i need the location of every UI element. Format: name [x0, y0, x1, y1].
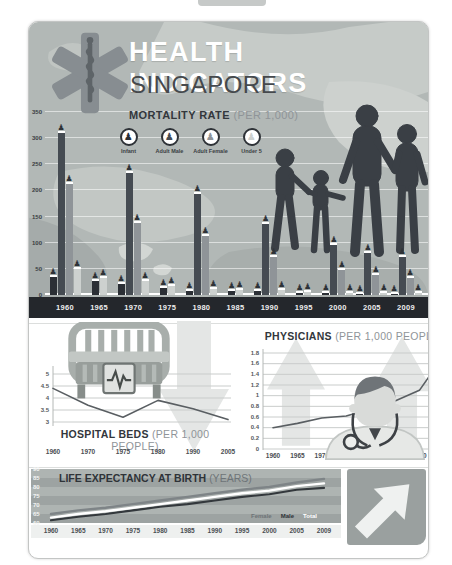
year-label: 1975 [158, 303, 176, 312]
person-icon: ♟ [296, 284, 303, 292]
mortality-bar [372, 273, 379, 295]
x-tick-label: 1980 [153, 527, 167, 534]
x-tick-label: 1975 [126, 527, 140, 534]
x-tick-label: 2009 [317, 527, 331, 534]
person-glyph: ♟ [124, 132, 133, 142]
person-icon: ♟ [270, 248, 277, 256]
y-tick-label: 60 [33, 520, 45, 526]
person-icon: ♟ [380, 284, 387, 292]
life-expectancy-section: LIFE EXPECTANCY AT BIRTH (YEARS) 9085807… [29, 468, 428, 546]
year-label: 1985 [227, 303, 245, 312]
legend-label-total: Total [303, 513, 317, 519]
under-5-icon: ♟ [243, 128, 261, 146]
person-icon: ♟ [73, 260, 80, 268]
person-icon: ♟ [406, 269, 413, 277]
person-icon: ♟ [398, 248, 405, 256]
legend-label: Under 5 [231, 148, 272, 154]
mortality-bar [142, 279, 149, 295]
y-tick-label: 80 [33, 484, 45, 490]
y-tick-label: 90 [33, 466, 45, 472]
top-tab [198, 0, 266, 6]
up-right-arrow-icon [347, 469, 426, 545]
adult-male-icon: ♟ [161, 128, 179, 146]
person-icon: ♟ [414, 284, 421, 292]
mortality-bar [407, 276, 414, 295]
legend-label: Adult Male [149, 148, 190, 154]
mortality-legend: ♟Infant♟Adult Male♟Adult Female♟Under 5 [108, 128, 272, 154]
person-icon: ♟ [372, 266, 379, 274]
year-label: 2000 [329, 303, 347, 312]
person-icon: ♟ [134, 214, 141, 222]
person-icon: ♟ [262, 215, 269, 223]
mortality-title-text: MORTALITY RATE [129, 109, 230, 121]
person-glyph: ♟ [206, 132, 215, 142]
mortality-bar [134, 221, 141, 295]
x-tick-label: 1985 [180, 527, 194, 534]
person-icon: ♟ [278, 281, 285, 289]
legend-item: ♟Adult Male [149, 128, 190, 154]
mortality-bar [160, 286, 167, 295]
legend-item: ♟Infant [108, 128, 149, 154]
mortality-bar [236, 288, 243, 295]
year-label: 1960 [56, 303, 74, 312]
mortality-bar [210, 287, 217, 295]
year-label: 1970 [124, 303, 142, 312]
mortality-bar [330, 243, 337, 295]
mortality-bar [338, 268, 345, 295]
year-label: 1990 [261, 303, 279, 312]
person-icon: ♟ [92, 272, 99, 280]
person-icon: ♟ [254, 282, 261, 290]
legend-label: Infant [108, 148, 149, 154]
infographic-card: 350300250200150100500 [28, 21, 429, 559]
page-subtitle: SINGAPORE [130, 71, 350, 99]
person-icon: ♟ [228, 282, 235, 290]
legend-label-female: Female [251, 513, 272, 519]
mortality-bar [270, 255, 277, 295]
mortality-bar [92, 279, 99, 295]
x-tick-label: 1995 [235, 527, 249, 534]
mortality-bar [50, 275, 57, 295]
header-section: 350300250200150100500 [29, 22, 428, 297]
person-glyph: ♟ [165, 132, 174, 142]
x-tick-label: 2005 [289, 527, 303, 534]
mortality-chart-title: MORTALITY RATE (PER 1,000) [129, 109, 298, 121]
person-icon: ♟ [322, 284, 329, 292]
mortality-bar [168, 284, 175, 295]
doctor-icon [319, 374, 429, 460]
life-expectancy-title-text: LIFE EXPECTANCY AT BIRTH [59, 472, 206, 484]
mortality-bar [262, 222, 269, 295]
life-expectancy-title-suffix: (YEARS) [209, 472, 252, 484]
y-tick-label: 85 [33, 475, 45, 481]
year-label: 1980 [192, 303, 210, 312]
life-expectancy-title: LIFE EXPECTANCY AT BIRTH (YEARS) [59, 472, 252, 484]
hospital-beds-panel: HOSPITAL BEDS (PER 1,000 PEOPLE) 54.543.… [37, 322, 233, 463]
health-infographic: { "header": { "title": "HEALTH INDICATOR… [0, 0, 452, 565]
person-icon: ♟ [202, 227, 209, 235]
person-icon: ♟ [118, 275, 125, 283]
star-of-life-icon [49, 32, 131, 114]
person-icon: ♟ [100, 269, 107, 277]
y-tick-label: 75 [33, 493, 45, 499]
person-icon: ♟ [194, 185, 201, 193]
person-icon: ♟ [236, 281, 243, 289]
person-icon: ♟ [126, 164, 133, 172]
person-icon: ♟ [210, 280, 217, 288]
legend-item: ♟Under 5 [231, 128, 272, 154]
person-icon: ♟ [338, 261, 345, 269]
mortality-bar [364, 251, 371, 295]
mortality-bar [118, 282, 125, 295]
mortality-bar [399, 255, 406, 295]
life-expectancy-x-labels: 1960196519701975198019851990199520002005… [31, 526, 341, 538]
trend-arrow-box [347, 469, 426, 545]
legend-label-male: Male [281, 513, 294, 519]
x-tick-label: 1990 [208, 527, 222, 534]
person-icon: ♟ [346, 284, 353, 292]
mortality-bar [194, 192, 201, 295]
infant-icon: ♟ [120, 128, 138, 146]
physicians-panel: PHYSICIANS (PER 1,000 PEOPLE) 1.81.61.41… [239, 322, 429, 463]
x-tick-label: 2000 [262, 527, 276, 534]
person-icon: ♟ [57, 124, 64, 132]
year-label: 2009 [397, 303, 415, 312]
mortality-x-axis: 1960196519701975198019851990199520002005… [29, 297, 428, 318]
person-icon: ♟ [168, 277, 175, 285]
